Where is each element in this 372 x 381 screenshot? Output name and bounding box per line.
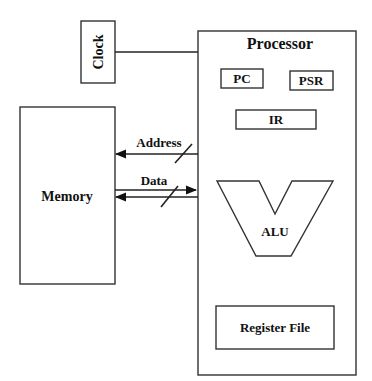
cpu-memory-diagram: Clock Processor PC PSR IR ALU Register F…	[0, 0, 372, 381]
psr-label: PSR	[299, 73, 324, 88]
register-file-label: Register File	[240, 320, 310, 335]
data-bus: Data	[115, 173, 198, 207]
register-file: Register File	[216, 306, 334, 349]
pc-register: PC	[221, 69, 263, 88]
pc-label: PC	[233, 71, 250, 86]
clock-block: Clock	[81, 21, 115, 83]
address-bus: Address	[116, 135, 198, 163]
clock-label: Clock	[91, 34, 106, 69]
alu-label: ALU	[261, 224, 289, 239]
address-label: Address	[136, 135, 181, 150]
data-label: Data	[141, 173, 168, 188]
memory-block: Memory	[20, 107, 115, 284]
processor-label: Processor	[247, 35, 313, 52]
ir-register: IR	[236, 110, 316, 129]
alu-unit: ALU	[217, 181, 333, 256]
psr-register: PSR	[290, 71, 333, 90]
ir-label: IR	[269, 112, 284, 127]
processor-block: Processor PC PSR IR ALU Register File	[198, 31, 356, 375]
alu-shape	[217, 181, 333, 256]
memory-label: Memory	[41, 189, 92, 204]
